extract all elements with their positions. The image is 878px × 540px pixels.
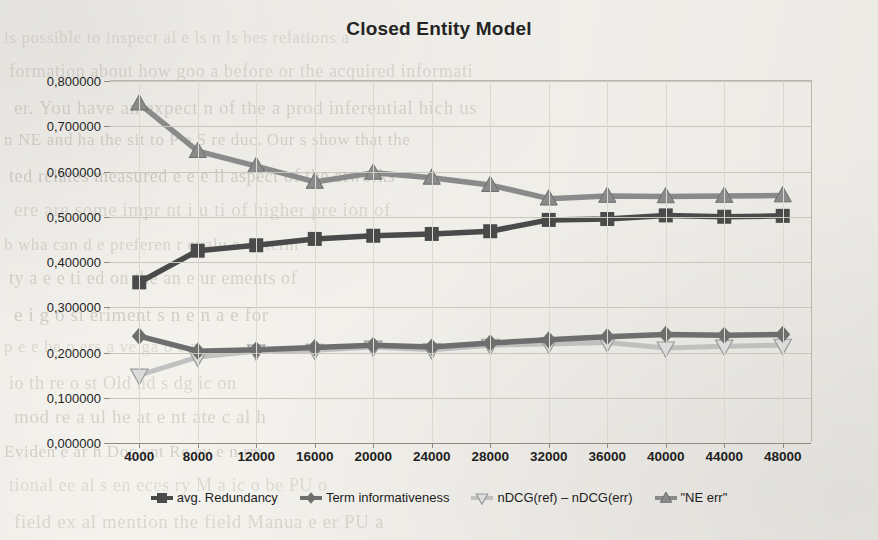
legend-item-label: avg. Redundancy (177, 490, 278, 505)
legend-item-label: "NE err" (681, 490, 728, 505)
chart-title: Closed Entity Model (0, 18, 878, 40)
x-axis-tick-label: 44000 (705, 449, 743, 464)
x-tick-mark (549, 443, 550, 448)
x-axis-tick-label: 36000 (588, 449, 626, 464)
gridline-horizontal (110, 353, 811, 354)
x-tick-mark (139, 443, 140, 448)
gridline-vertical (139, 81, 140, 442)
y-axis-tick-label: 0,400000 (1, 255, 109, 270)
chart-legend: avg. RedundancyTerm informativenessnDCG(… (0, 490, 878, 505)
y-axis-tick-label: 0,500000 (1, 209, 109, 224)
gridline-vertical (549, 81, 550, 442)
legend-item[interactable]: "NE err" (655, 490, 728, 505)
x-axis-tick-label: 40000 (647, 449, 685, 464)
gridline-vertical (198, 81, 199, 442)
gridline-vertical (373, 81, 374, 442)
y-axis-tick-label: 0,100000 (1, 390, 109, 405)
legend-item[interactable]: nDCG(ref) – nDCG(err) (471, 490, 632, 505)
x-axis-tick-label: 20000 (354, 449, 392, 464)
x-tick-mark (724, 443, 725, 448)
gridline-vertical (256, 81, 257, 442)
x-axis-tick-label: 28000 (471, 449, 509, 464)
x-axis-tick-label: 4000 (124, 449, 154, 464)
legend-marker-icon (151, 491, 173, 505)
legend-marker-icon (471, 491, 493, 505)
gridline-horizontal (110, 398, 811, 399)
gridline-horizontal (110, 172, 811, 173)
y-axis-tick-label: 0,300000 (1, 300, 109, 315)
x-tick-mark (607, 443, 608, 448)
x-tick-mark (373, 443, 374, 448)
x-tick-mark (315, 443, 316, 448)
x-tick-mark (783, 443, 784, 448)
legend-item-label: nDCG(ref) – nDCG(err) (497, 490, 632, 505)
y-axis-tick-label: 0,000000 (1, 436, 109, 451)
gridline-vertical (783, 81, 784, 442)
x-axis-tick-label: 12000 (237, 449, 275, 464)
legend-marker-icon (655, 491, 677, 505)
x-tick-mark (256, 443, 257, 448)
y-axis-tick-label: 0,600000 (1, 164, 109, 179)
gridline-horizontal (110, 81, 811, 82)
data-series (132, 208, 790, 289)
y-axis-tick-label: 0,800000 (1, 74, 109, 89)
x-axis-tick-label: 32000 (530, 449, 568, 464)
y-axis-tick-label: 0,200000 (1, 345, 109, 360)
x-tick-mark (198, 443, 199, 448)
y-axis-tick-label: 0,700000 (1, 119, 109, 134)
gridline-vertical (724, 81, 725, 442)
x-tick-mark (490, 443, 491, 448)
x-tick-mark (432, 443, 433, 448)
data-series (131, 95, 792, 205)
gridline-horizontal (110, 126, 811, 127)
x-axis-tick-label: 16000 (296, 449, 334, 464)
plot-area: 0,0000000,1000000,2000000,3000000,400000… (110, 80, 812, 442)
x-axis-line (110, 443, 811, 444)
gridline-vertical (607, 81, 608, 442)
gridline-horizontal (110, 307, 811, 308)
gridline-vertical (490, 81, 491, 442)
x-axis-tick-label: 24000 (413, 449, 451, 464)
legend-item[interactable]: avg. Redundancy (151, 490, 278, 505)
x-axis-tick-label: 8000 (183, 449, 213, 464)
x-axis-tick-label: 48000 (764, 449, 802, 464)
legend-marker-icon (300, 491, 322, 505)
gridline-vertical (315, 81, 316, 442)
gridline-horizontal (110, 217, 811, 218)
legend-item[interactable]: Term informativeness (300, 490, 450, 505)
gridline-vertical (432, 81, 433, 442)
chart-figure: Closed Entity Model 0,0000000,1000000,20… (0, 0, 878, 540)
gridline-vertical (666, 81, 667, 442)
gridline-horizontal (110, 262, 811, 263)
x-tick-mark (666, 443, 667, 448)
legend-item-label: Term informativeness (326, 490, 450, 505)
